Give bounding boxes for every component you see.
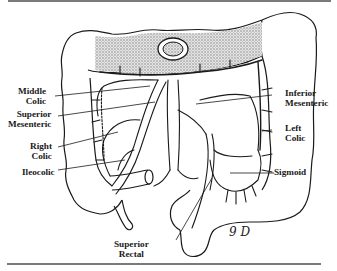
label-left-colic: Left Colic <box>285 124 305 144</box>
label-middle-colic: Middle Colic <box>18 87 46 107</box>
label-right-colic: Right Colic <box>30 142 52 162</box>
artist-signature: 9 D <box>229 225 250 239</box>
bottom-rule <box>7 263 321 265</box>
label-sigmoid: Sigmoid <box>274 168 306 178</box>
label-inferior-mesenteric: Inferior Mesenteric <box>285 89 328 109</box>
label-ileocolic: Ileocolic <box>22 168 55 178</box>
label-superior-rectal: Superior Rectal <box>114 240 149 260</box>
label-superior-mesenteric: Superior Mesenteric <box>8 110 51 130</box>
